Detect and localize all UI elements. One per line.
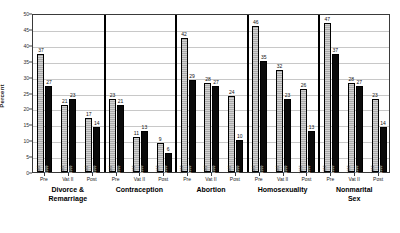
- bar-series-year-label: 1987: [38, 165, 41, 173]
- bar-series-year-label: 1987: [181, 165, 184, 173]
- bar-value-label: 28: [205, 76, 211, 82]
- bar-value-label: 27: [213, 79, 219, 85]
- y-axis-tick-labels: 05101520253035404550: [12, 0, 29, 233]
- bar-value-label: 42: [181, 31, 187, 37]
- bar-value-label: 13: [309, 124, 315, 130]
- bar: 131999: [141, 131, 148, 172]
- cohort-bar-pair: 281987271999: [348, 15, 363, 172]
- bar-value-label: 14: [380, 120, 386, 126]
- bar-group: 2319872119991119871319999198761999: [105, 15, 177, 172]
- bar-series-year-label: 1987: [157, 165, 160, 173]
- bar-series-year-label: 1999: [356, 165, 359, 173]
- x-axis-group-label: Homosexuality: [258, 185, 308, 194]
- x-axis-cohort-label: Post: [230, 176, 240, 182]
- bar: 171987: [85, 118, 92, 172]
- bar-value-label: 21: [118, 98, 124, 104]
- bar-series-year-label: 1987: [252, 165, 255, 173]
- y-axis-tick-mark: [29, 141, 32, 142]
- bar: 231987: [109, 99, 116, 172]
- cohort-bar-pair: 321987231999: [276, 15, 291, 172]
- y-axis-tick-mark: [29, 14, 32, 15]
- bar: 61999: [165, 153, 172, 172]
- bar-series-year-label: 1999: [141, 165, 144, 173]
- bar-series-year-label: 1999: [332, 165, 335, 173]
- bar: 271999: [212, 86, 219, 172]
- cohort-bar-pair: 231987141999: [372, 15, 387, 172]
- x-axis-cohort-label: Vat II: [349, 176, 360, 182]
- y-axis-tick-mark: [29, 45, 32, 46]
- x-axis-cohort-label: Vat II: [277, 176, 288, 182]
- x-axis-cohort-label: Vat II: [62, 176, 73, 182]
- bar: 281987: [204, 83, 211, 172]
- bar-series-year-label: 1987: [324, 165, 327, 173]
- x-axis-group-label: Divorce & Remarriage: [49, 185, 88, 203]
- bar: 241987: [228, 96, 235, 172]
- bar-series-year-label: 1999: [284, 165, 287, 173]
- y-axis-tick-mark: [29, 157, 32, 158]
- y-axis-tick-mark: [29, 173, 32, 174]
- bar-value-label: 35: [261, 54, 267, 60]
- bar-series-year-label: 1999: [260, 165, 263, 173]
- bar-series-year-label: 1999: [46, 165, 49, 173]
- bar-value-label: 27: [46, 79, 52, 85]
- bar-value-label: 9: [159, 136, 162, 142]
- y-axis-title: Percent: [0, 84, 5, 107]
- cohort-bar-pair: 9198761999: [157, 15, 172, 172]
- bar-value-label: 27: [356, 79, 362, 85]
- bar-value-label: 23: [110, 92, 116, 98]
- bar-group: 461987351999321987231999261987131999: [248, 15, 320, 172]
- bar-value-label: 23: [372, 92, 378, 98]
- bar: 141999: [93, 127, 100, 172]
- bar-series-year-label: 1987: [372, 165, 375, 173]
- bar-series-year-label: 1999: [308, 165, 311, 173]
- bar-value-label: 37: [38, 47, 44, 53]
- group-separator: [318, 15, 320, 172]
- bar-series-year-label: 1987: [228, 165, 231, 173]
- group-separator: [247, 15, 249, 172]
- x-axis-cohort-label: Vat II: [134, 176, 145, 182]
- bar: 461987: [252, 26, 259, 172]
- bar-value-label: 13: [142, 124, 148, 130]
- bar-chart: Percent 05101520253035404550 37198727199…: [0, 0, 400, 233]
- bar-value-label: 37: [333, 47, 339, 53]
- bar: 321987: [276, 70, 283, 172]
- x-axis: PreVat IIPostDivorce & RemarriagePreVat …: [32, 173, 390, 233]
- x-axis-cohort-label: Post: [301, 176, 311, 182]
- bar-series-year-label: 1987: [276, 165, 279, 173]
- x-axis-cohort-label: Post: [87, 176, 97, 182]
- bar-value-label: 26: [301, 82, 307, 88]
- bar-series-year-label: 1987: [61, 165, 64, 173]
- bar-value-label: 46: [253, 19, 259, 25]
- bar-series-year-label: 1999: [189, 165, 192, 173]
- y-axis-tick-mark: [29, 93, 32, 94]
- bar-series-year-label: 1987: [300, 165, 303, 173]
- bar: 211987: [61, 105, 68, 172]
- plot-area: 3719872719992119872319991719871419992319…: [32, 14, 390, 173]
- x-axis-group-label: Contraception: [116, 185, 163, 194]
- bar: 421987: [181, 38, 188, 172]
- bar: 101999: [236, 140, 243, 172]
- x-axis-cohort-label: Post: [158, 176, 168, 182]
- cohort-bar-pair: 241987101999: [228, 15, 243, 172]
- x-axis-cohort-label: Pre: [255, 176, 263, 182]
- bar-series-year-label: 1999: [93, 165, 96, 173]
- bar-series-year-label: 1987: [133, 165, 136, 173]
- y-axis-tick-mark: [29, 29, 32, 30]
- x-axis-cohort-label: Pre: [112, 176, 120, 182]
- bar: 231999: [284, 99, 291, 172]
- x-axis-cohort-label: Pre: [183, 176, 191, 182]
- bar-value-label: 11: [134, 130, 139, 136]
- bar-series-year-label: 1999: [380, 165, 383, 173]
- bar: 371987: [37, 54, 44, 172]
- bar-series-year-label: 1999: [117, 165, 120, 173]
- bar-value-label: 28: [348, 76, 354, 82]
- x-axis-group-label: Nonmarital Sex: [336, 185, 373, 203]
- cohort-bar-pair: 471987371999: [324, 15, 339, 172]
- x-axis-cohort-label: Pre: [326, 176, 334, 182]
- bar-series-year-label: 1987: [109, 165, 112, 173]
- bar-series-year-label: 1999: [69, 165, 72, 173]
- bar: 471987: [324, 23, 331, 172]
- bar: 281987: [348, 83, 355, 172]
- cohort-bar-pair: 211987231999: [61, 15, 76, 172]
- bar-series-year-label: 1999: [213, 165, 216, 173]
